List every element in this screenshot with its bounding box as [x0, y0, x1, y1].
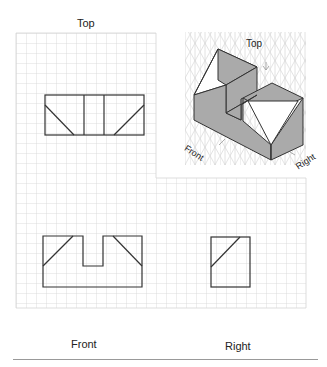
front-view-label: Front: [71, 338, 97, 350]
isometric-view: [185, 32, 306, 165]
iso-top-label: Top: [246, 38, 262, 49]
orthographic-drawing: [0, 0, 327, 367]
right-view-label: Right: [225, 340, 251, 352]
top-view-label: Top: [77, 17, 95, 29]
divider-rule: [13, 359, 318, 360]
